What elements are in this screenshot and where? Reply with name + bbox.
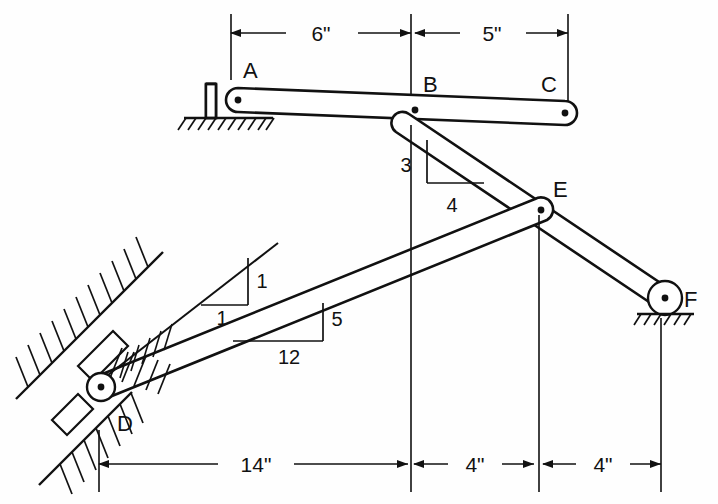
slope-label-12: 12 [278,346,300,368]
slope-label-1-run: 1 [216,307,227,329]
dim-label-5in: 5" [482,22,501,45]
member-DE [89,197,553,399]
support-D-bracket-lower [52,394,93,435]
joint-label-F: F [684,287,697,312]
joint-label-A: A [243,58,258,83]
joint-pin-E [538,207,545,214]
joint-label-C: C [541,72,557,97]
joint-pin-C [562,110,569,117]
dim-label-4in-1: 4" [465,453,484,476]
joint-pin-D [98,384,105,391]
joint-pin-B [412,107,419,114]
structural-diagram: 6" 5" [0,0,718,504]
slope-label-1-rise: 1 [256,270,267,292]
joint-label-D: D [117,411,133,436]
bottom-dimension-group [99,125,661,492]
joint-pin-F [662,295,669,302]
joint-pin-A [235,97,242,104]
dim-label-4in-2: 4" [593,453,612,476]
dim-label-14in: 14" [241,453,272,476]
slope-label-4: 4 [446,194,457,216]
member-DE-body [89,197,553,399]
truss-drawing: 6" 5" [0,0,718,504]
dim-label-6in: 6" [311,22,330,45]
joint-label-E: E [553,177,568,202]
slope-label-5: 5 [331,308,342,330]
joint-label-B: B [423,72,438,97]
ground-hatch-A [178,118,274,130]
slope-label-3: 3 [400,154,411,176]
